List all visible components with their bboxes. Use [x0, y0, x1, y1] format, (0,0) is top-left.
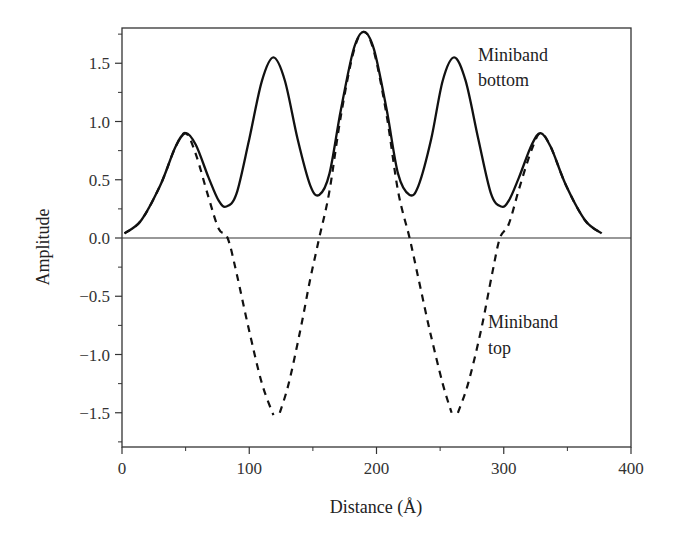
miniband-top-curve	[280, 32, 452, 413]
x-tick-label: 400	[618, 459, 644, 478]
y-tick-label: 0.5	[89, 171, 110, 190]
x-tick-label: 300	[491, 459, 517, 478]
x-tick-label: 200	[364, 459, 390, 478]
x-tick-label: 0	[118, 459, 127, 478]
annotation-miniband-top-line2: top	[488, 338, 511, 358]
y-tick-label: 1.5	[89, 54, 110, 73]
amplitude-chart: −1.5−1.0−0.50.00.51.01.5 0100200300400 D…	[0, 0, 678, 547]
miniband-top-curve	[458, 133, 602, 413]
y-axis: −1.5−1.0−0.50.00.51.01.5	[79, 34, 122, 442]
y-axis-title: Amplitude	[33, 208, 53, 285]
annotation-miniband-bottom-line2: bottom	[478, 70, 529, 90]
miniband-top-curve	[125, 133, 274, 415]
series-layer	[125, 32, 602, 415]
y-tick-label: 1.0	[89, 113, 110, 132]
annotation-miniband-bottom-line1: Miniband	[478, 45, 548, 65]
y-tick-label: −1.5	[79, 404, 110, 423]
y-tick-label: −1.0	[79, 346, 110, 365]
x-tick-label: 100	[237, 459, 263, 478]
y-tick-label: 0.0	[89, 229, 110, 248]
annotation-miniband-top-line1: Miniband	[488, 312, 558, 332]
x-axis: 0100200300400	[118, 447, 644, 478]
y-tick-label: −0.5	[79, 287, 110, 306]
x-axis-title: Distance (Å)	[330, 497, 422, 518]
